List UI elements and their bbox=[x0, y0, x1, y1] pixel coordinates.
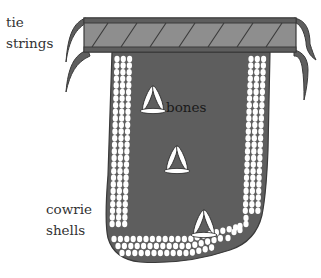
cowrie-shell bbox=[255, 62, 260, 69]
cowrie-shell bbox=[123, 188, 128, 195]
cowrie-shell bbox=[145, 250, 150, 257]
cowrie-shell bbox=[124, 161, 129, 168]
cowrie-shell bbox=[256, 188, 261, 195]
cowrie-shell bbox=[125, 142, 130, 149]
cowrie-shell bbox=[211, 237, 216, 244]
cowrie-shell bbox=[112, 142, 117, 149]
cowrie-shell bbox=[163, 236, 168, 243]
cowrie-shell bbox=[209, 244, 214, 251]
label-tie-strings-line1: tie bbox=[6, 12, 53, 33]
cowrie-shell bbox=[259, 122, 264, 129]
cowrie-shell bbox=[111, 181, 116, 188]
cowrie-shell bbox=[125, 115, 130, 122]
cowrie-shell bbox=[117, 188, 122, 195]
cowrie-shell bbox=[111, 188, 116, 195]
cowrie-shell bbox=[258, 135, 263, 142]
cowrie-shell bbox=[111, 161, 116, 168]
cowrie-shell bbox=[250, 188, 255, 195]
cowrie-shell bbox=[205, 238, 210, 245]
cowrie-shell bbox=[113, 102, 118, 109]
cowrie-shell bbox=[260, 89, 265, 96]
cowrie-shell bbox=[117, 175, 122, 182]
cowrie-shell bbox=[169, 236, 174, 243]
cowrie-shell bbox=[246, 128, 251, 135]
cowrie-shell bbox=[143, 236, 148, 243]
cowrie-shell bbox=[192, 242, 197, 249]
cowrie-shell bbox=[112, 128, 117, 135]
cowrie-shell bbox=[253, 95, 258, 102]
label-bones-text: bones bbox=[166, 97, 206, 118]
cowrie-shell bbox=[116, 201, 121, 208]
cowrie-shell bbox=[139, 250, 144, 257]
cowrie-shell bbox=[257, 161, 262, 168]
cowrie-shell bbox=[111, 175, 116, 182]
cowrie-shell bbox=[112, 148, 117, 155]
cowrie-shell bbox=[126, 250, 131, 257]
cowrie-shell bbox=[110, 221, 115, 228]
cowrie-shell bbox=[244, 161, 249, 168]
cowrie-shell bbox=[253, 115, 258, 122]
cowrie-shell bbox=[183, 250, 188, 257]
label-cowrie-shells-line2: shells bbox=[46, 220, 92, 241]
cowrie-shell bbox=[132, 250, 137, 257]
cowrie-shell bbox=[121, 62, 126, 69]
cowrie-shell bbox=[122, 243, 127, 250]
cowrie-shell bbox=[245, 148, 250, 155]
cowrie-shell bbox=[256, 181, 261, 188]
cowrie-shell bbox=[251, 161, 256, 168]
cowrie-shell bbox=[118, 135, 123, 142]
cowrie-shell bbox=[110, 201, 115, 208]
cowrie-shell bbox=[258, 128, 263, 135]
cowrie-shell bbox=[196, 248, 201, 255]
cowrie-shell bbox=[261, 69, 266, 76]
cowrie-shell bbox=[150, 236, 155, 243]
cowrie-shell bbox=[116, 214, 121, 221]
cowrie-shell bbox=[114, 56, 119, 63]
cowrie-shell bbox=[135, 243, 140, 250]
cowrie-shell bbox=[246, 109, 251, 116]
cowrie-shell bbox=[113, 122, 118, 129]
cowrie-shell bbox=[147, 243, 152, 250]
cowrie-shell bbox=[118, 236, 123, 243]
cowrie-shell bbox=[220, 228, 225, 235]
tie-strings-right bbox=[294, 18, 316, 100]
cowrie-shell bbox=[173, 243, 178, 250]
cowrie-shell bbox=[114, 62, 119, 69]
cowrie-shell bbox=[114, 76, 119, 83]
cowrie-shell bbox=[255, 208, 260, 215]
label-cowrie-shells: cowrie shells bbox=[46, 199, 92, 241]
cowrie-shell bbox=[110, 214, 115, 221]
cowrie-shell bbox=[127, 56, 132, 63]
cowrie-shell bbox=[244, 181, 249, 188]
cowrie-shell bbox=[123, 181, 128, 188]
cowrie-shell bbox=[117, 168, 122, 175]
cowrie-shell bbox=[259, 115, 264, 122]
cowrie-shell bbox=[247, 82, 252, 89]
cowrie-shell bbox=[246, 115, 251, 122]
cowrie-shell bbox=[245, 142, 250, 149]
cowrie-shell bbox=[119, 122, 124, 129]
cowrie-shell bbox=[248, 76, 253, 83]
cowrie-shell bbox=[164, 250, 169, 257]
cowrie-shell bbox=[250, 181, 255, 188]
cowrie-shell bbox=[254, 69, 259, 76]
cowrie-shell bbox=[158, 250, 163, 257]
cowrie-shell bbox=[248, 56, 253, 63]
cowrie-shell bbox=[250, 194, 255, 201]
cowrie-shell bbox=[218, 235, 223, 242]
cowrie-shell bbox=[250, 175, 255, 182]
cowrie-shell bbox=[247, 102, 252, 109]
cowrie-shell bbox=[137, 236, 142, 243]
cowrie-shell bbox=[125, 135, 130, 142]
cowrie-shell bbox=[252, 142, 257, 149]
cowrie-shell bbox=[253, 102, 258, 109]
cowrie-shell bbox=[131, 236, 136, 243]
cowrie-shell bbox=[151, 250, 156, 257]
cowrie-shell bbox=[120, 89, 125, 96]
cowrie-shell bbox=[254, 76, 259, 83]
cowrie-shell bbox=[122, 221, 127, 228]
cowrie-shell bbox=[261, 62, 266, 69]
cowrie-shell bbox=[126, 95, 131, 102]
cowrie-shell bbox=[258, 148, 263, 155]
cowrie-shell bbox=[120, 69, 125, 76]
